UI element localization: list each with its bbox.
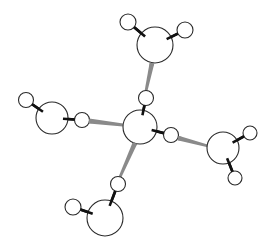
water-molecule-right — [207, 126, 257, 185]
oxygen-atom — [137, 27, 173, 63]
hydrogen-atom — [19, 93, 34, 108]
hydrogen-atom — [164, 128, 179, 143]
hydrogen-atom — [75, 113, 90, 128]
hydrogen-atom — [120, 14, 136, 30]
hydrogen-bond-end — [134, 143, 135, 146]
hydrogen-bond — [119, 142, 137, 178]
water-molecule-top — [120, 14, 193, 63]
atoms — [19, 14, 258, 236]
oxygen-atom — [87, 200, 123, 236]
hydrogen-bond — [89, 119, 123, 127]
hydrogen-bond — [145, 62, 155, 91]
covalent-bond-overlay — [63, 119, 75, 120]
water-pentamer-diagram — [0, 0, 270, 245]
hydrogen-atom — [243, 126, 257, 140]
water-molecule-bottom — [65, 177, 126, 237]
hydrogen-bond-end — [151, 63, 152, 66]
hydrogen-atom — [177, 22, 193, 38]
hydrogen-atom — [65, 199, 81, 215]
hydrogen-atom — [111, 177, 126, 192]
water-molecule-left — [19, 93, 90, 135]
water-molecule-center — [123, 91, 179, 145]
hydrogen-atom — [139, 91, 154, 106]
hydrogen-bond-end — [178, 138, 181, 139]
hydrogen-atom — [228, 171, 242, 185]
hydrogen-bond — [177, 136, 208, 148]
oxygen-atom — [123, 110, 157, 144]
oxygen-atom — [207, 132, 239, 164]
